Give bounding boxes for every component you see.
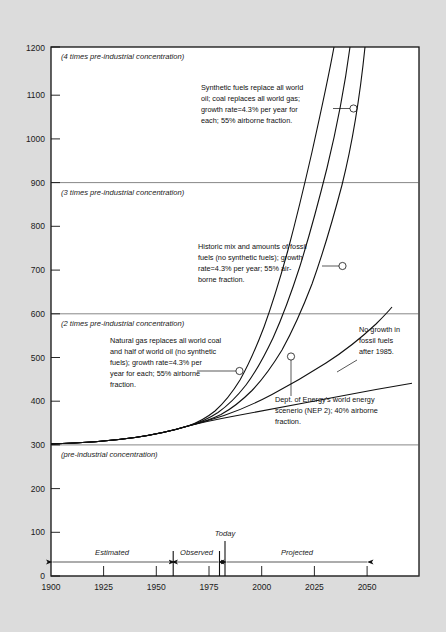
- ytick-label-600: 600: [31, 309, 45, 319]
- annot-doe-line-0: Dept. of Energy's world energy: [275, 395, 375, 404]
- ytick-label-1100: 1100: [27, 90, 46, 100]
- ytick-label-1200: 1200: [26, 43, 45, 53]
- ytick-label-0: 0: [40, 571, 45, 581]
- ytick-label-700: 700: [31, 265, 45, 275]
- annot-synthetic-line-0: Synthetic fuels replace all world: [201, 83, 303, 92]
- xtick-label-1975: 1975: [200, 582, 219, 592]
- period-label-projected: Projected: [281, 548, 314, 557]
- ref-label-1x: (pre-industrial concentration): [61, 450, 158, 459]
- ytick-label-100: 100: [31, 527, 45, 537]
- ytick-label-200: 200: [31, 484, 45, 494]
- chart-canvas: 0 100 200 300 400 500 600 700 800 900 10…: [0, 0, 446, 632]
- ytick-label-900: 900: [31, 178, 45, 188]
- xtick-label-2000: 2000: [252, 582, 271, 592]
- period-label-estimated: Estimated: [95, 548, 130, 557]
- ytick-label-800: 800: [31, 221, 45, 231]
- plot-area-frame: [51, 47, 419, 576]
- x-axis-labels: 1900 1925 1950 1975 2000 2025 2050: [42, 582, 377, 592]
- annot-doe-line-2: fraction.: [275, 417, 301, 426]
- ref-label-3x: (3 times pre-industrial concentration): [61, 188, 185, 197]
- ytick-label-300: 300: [31, 440, 45, 450]
- annot-historic-line-1: fuels (no synthetic fuels); growth: [198, 253, 303, 262]
- annot-nogrowth-line-2: after 1985.: [359, 347, 394, 356]
- annot-historic-line-0: Historic mix and amounts of fossil: [198, 242, 307, 251]
- y-axis-labels: 0 100 200 300 400 500 600 700 800 900 10…: [26, 43, 45, 582]
- xtick-label-1950: 1950: [147, 582, 166, 592]
- xtick-label-2050: 2050: [358, 582, 377, 592]
- period-label-observed: Observed: [180, 548, 214, 557]
- annot-gas-line-0: Natural gas replaces all world coal: [110, 336, 222, 345]
- ref-label-2x: (2 times pre-industrial concentration): [61, 319, 185, 328]
- annot-nogrowth-line-1: fossil fuels: [359, 336, 393, 345]
- annot-nogrowth-line-0: No growth in: [359, 325, 400, 334]
- ytick-label-400: 400: [31, 396, 45, 406]
- annot-historic-line-2: rate=4.3% per year; 55% air-: [198, 264, 292, 273]
- annot-gas-line-1: and half of world oil (no synthetic: [110, 347, 217, 356]
- annot-synthetic-line-3: each; 55% airborne fraction.: [201, 116, 292, 125]
- annot-synthetic-line-2: growth rate=4.3% per year for: [201, 105, 298, 114]
- ytick-label-500: 500: [31, 353, 45, 363]
- today-marker-label: Today: [215, 529, 237, 538]
- annot-gas-line-2: fuels); growth rate=4.3% per: [110, 358, 202, 367]
- annot-synthetic-line-1: oil; coal replaces all world gas;: [201, 94, 300, 103]
- annot-doe-line-1: scenerio (NEP 2); 40% airborne: [275, 406, 378, 415]
- annot-gas-line-3: year for each; 55% airborne: [110, 369, 200, 378]
- xtick-label-1900: 1900: [42, 582, 61, 592]
- xtick-label-1925: 1925: [94, 582, 113, 592]
- annot-historic-line-3: borne fraction.: [198, 275, 245, 284]
- annot-gas-line-4: fraction.: [110, 380, 136, 389]
- ytick-label-1000: 1000: [26, 134, 45, 144]
- ref-label-4x: (4 times pre-industrial concentration): [61, 52, 185, 61]
- co2-concentration-figure: 0 100 200 300 400 500 600 700 800 900 10…: [0, 0, 446, 632]
- xtick-label-2025: 2025: [305, 582, 324, 592]
